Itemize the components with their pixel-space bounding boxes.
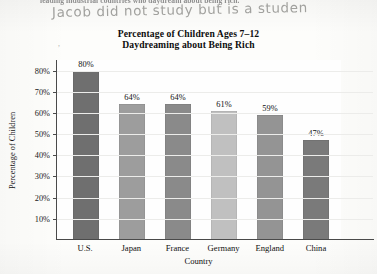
bar-group: 80%64%64%61%59%47%	[57, 60, 341, 240]
y-axis-tick	[53, 71, 58, 72]
x-axis-category-label: Germany	[201, 243, 247, 253]
bar-chart: 80%64%64%61%59%47% 10%20%30%40%50%60%70%…	[56, 60, 341, 240]
y-axis-tick-label: 80%	[35, 66, 50, 75]
gridline	[57, 71, 373, 72]
bar-value-label: 59%	[262, 104, 277, 113]
bar-slot: 47%	[293, 60, 339, 240]
bar-slot: 80%	[63, 60, 109, 240]
y-axis-tick-label: 30%	[35, 172, 50, 181]
y-axis-tick-label: 40%	[35, 151, 50, 160]
bar-value-label: 80%	[78, 60, 93, 69]
x-axis-category-label: Japan	[108, 243, 154, 253]
y-axis-tick-label: 20%	[35, 193, 50, 202]
x-axis-category-label: France	[154, 243, 200, 253]
y-axis-tick	[53, 176, 58, 177]
gridline	[57, 219, 373, 220]
y-axis-title: Percentage of Children	[7, 60, 19, 240]
y-axis-tick	[53, 198, 58, 199]
y-axis-tick	[53, 92, 58, 93]
bar	[211, 111, 237, 240]
chart-title-line-1: Percentage of Children Ages 7–12	[0, 28, 377, 39]
x-axis-category-labels: U.S.JapanFranceGermanyEnglandChina	[56, 243, 341, 253]
bar-slot: 64%	[109, 60, 155, 240]
handwritten-annotation: Jacob did not study but is a studen	[52, 0, 377, 20]
gridline	[57, 155, 373, 156]
bar-slot: 64%	[155, 60, 201, 240]
y-axis-tick	[53, 134, 58, 135]
gridline	[57, 113, 373, 114]
plot-area: 80%64%64%61%59%47% 10%20%30%40%50%60%70%…	[56, 60, 341, 240]
x-axis-category-label: China	[293, 243, 339, 253]
bar-slot: 59%	[247, 60, 293, 240]
y-axis-tick	[53, 155, 58, 156]
bar-value-label: 61%	[216, 100, 231, 109]
gridline	[57, 134, 373, 135]
y-axis-tick-label: 70%	[35, 87, 50, 96]
y-axis-title-text: Percentage of Children	[9, 111, 18, 188]
x-axis-category-label: U.S.	[62, 243, 108, 253]
y-axis-tick-label: 10%	[35, 214, 50, 223]
x-axis-title: Country	[56, 256, 341, 266]
y-axis-tick-label: 50%	[35, 130, 50, 139]
bar-slot: 61%	[201, 60, 247, 240]
bar-value-label: 64%	[124, 93, 139, 102]
bar-value-label: 64%	[170, 93, 185, 102]
x-axis-line	[56, 239, 374, 240]
gridline	[57, 198, 373, 199]
stray-pencil-mark: ’	[57, 44, 60, 53]
y-axis-tick	[53, 219, 58, 220]
y-axis-tick-label: 60%	[35, 108, 50, 117]
gridline	[57, 176, 373, 177]
y-axis-tick	[53, 113, 58, 114]
x-axis-category-label: England	[247, 243, 293, 253]
gridline	[57, 92, 373, 93]
